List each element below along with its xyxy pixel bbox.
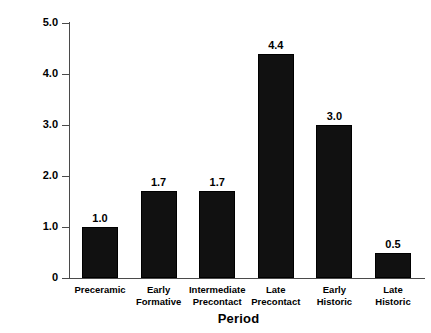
bar: [199, 191, 235, 278]
bar: [316, 125, 352, 278]
bar: [258, 54, 294, 278]
bar-value-label: 3.0: [310, 110, 358, 122]
x-axis-tick-label: EarlyFormative: [126, 284, 192, 307]
y-axis-tick-label: 4.0: [0, 67, 58, 79]
x-axis-tick-label-line: Formative: [126, 296, 192, 308]
x-axis-line: [69, 278, 425, 279]
y-axis-tick: [62, 176, 69, 177]
x-axis-tick-label: LatePrecontact: [243, 284, 309, 307]
bar-value-label: 1.7: [135, 176, 183, 188]
bar-value-label: 4.4: [252, 39, 300, 51]
x-axis-tick-label-line: Precontact: [184, 296, 250, 308]
x-axis-tick-label-line: Precontact: [243, 296, 309, 308]
x-axis-tick-label-line: Historic: [301, 296, 367, 308]
x-axis-tick-label-line: Historic: [360, 296, 426, 308]
x-axis-tick-label-line: Early: [301, 284, 367, 296]
y-axis-tick-label: 5.0: [0, 16, 58, 28]
x-axis-tick-label: LateHistoric: [360, 284, 426, 307]
y-axis-tick-label: 3.0: [0, 118, 58, 130]
x-axis-tick-label: EarlyHistoric: [301, 284, 367, 307]
x-axis-tick-label-line: Preceramic: [67, 284, 133, 296]
bar-chart-figure: Percentage 01.02.03.04.05.0 1.01.71.74.4…: [0, 0, 431, 333]
y-axis-line: [69, 22, 70, 279]
y-axis-tick-label: 0: [0, 271, 58, 283]
y-axis-tick: [62, 227, 69, 228]
bar-value-label: 1.0: [76, 212, 124, 224]
bar-value-label: 1.7: [193, 176, 241, 188]
bar: [141, 191, 177, 278]
y-axis-tick: [62, 278, 69, 279]
y-axis-tick-label: 1.0: [0, 220, 58, 232]
x-axis-tick-label-line: Late: [243, 284, 309, 296]
y-axis-tick: [62, 23, 69, 24]
x-axis-tick-label-line: Early: [126, 284, 192, 296]
y-axis-tick: [62, 74, 69, 75]
y-axis-tick: [62, 125, 69, 126]
x-axis-tick-label: Preceramic: [67, 284, 133, 296]
bar-value-label: 0.5: [369, 238, 417, 250]
x-axis-title: Period: [0, 311, 431, 326]
y-axis-tick-label: 2.0: [0, 169, 58, 181]
x-axis-tick-label-line: Intermediate: [184, 284, 250, 296]
x-axis-tick-label: IntermediatePrecontact: [184, 284, 250, 307]
x-axis-tick-label-line: Late: [360, 284, 426, 296]
bar: [375, 253, 411, 279]
bar: [82, 227, 118, 278]
